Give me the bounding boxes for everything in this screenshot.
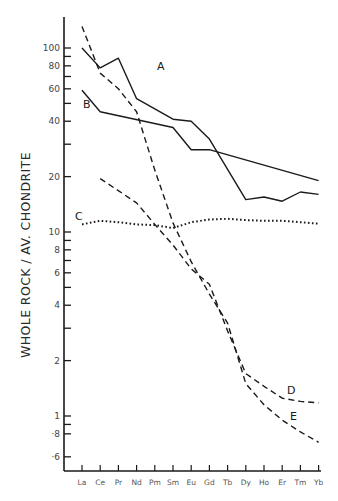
series-line-e [82,26,319,442]
series-line-d [100,179,318,403]
x-tick-label: Dy [241,478,252,487]
axes [64,17,321,471]
y-axis-title: WHOLE ROCK / AV. CHONDRITE [18,152,33,358]
series-line-c [82,219,319,228]
x-tick-label: Sm [167,478,179,487]
y-tick-label: 60 [49,84,61,94]
y-tick-label: 20 [49,172,61,182]
y-tick-label: 4 [54,300,60,310]
x-tick-label: Ce [95,478,105,487]
series-lines [82,26,319,442]
ree-chondrite-chart: WHOLE ROCK / AV. CHONDRITE 1008060402010… [0,0,338,501]
x-tick-label: Pm [149,478,161,487]
x-tick-label: Er [278,478,287,487]
y-tick-label: 80 [49,61,61,71]
series-line-a [82,48,319,201]
y-tick-label: 2 [54,356,60,366]
series-label-e: E [290,410,297,423]
y-axis-label: WHOLE ROCK / AV. CHONDRITE [18,152,33,358]
y-tick-label: 40 [49,116,61,126]
y-tick-label: ·8 [51,429,60,439]
x-axis-ticks: LaCePrNdPmSmEuGdTbDyHoErTmYb [78,465,324,487]
series-label-d: D [287,384,295,397]
y-tick-label: 1 [54,411,60,421]
y-tick-label: 10 [49,227,61,237]
x-tick-label: Pr [115,478,123,487]
x-tick-label: Eu [186,478,196,487]
series-label-c: C [75,210,83,223]
x-tick-label: Tm [293,478,306,487]
series-labels: ABCDE [75,60,297,423]
x-tick-label: Tb [222,478,233,487]
x-tick-label: La [78,478,87,487]
y-tick-label: 8 [54,245,60,255]
y-tick-label: ·6 [51,452,60,462]
x-tick-label: Gd [204,478,215,487]
series-label-a: A [157,60,165,73]
series-label-b: B [83,98,91,111]
x-tick-label: Nd [131,478,142,487]
x-tick-label: Yb [313,478,324,487]
y-axis-ticks: 100806040201086421·8·6 [43,43,71,462]
y-tick-label: 100 [43,43,60,53]
x-tick-label: Ho [259,478,270,487]
series-line-b [82,90,319,181]
y-tick-label: 6 [54,268,60,278]
